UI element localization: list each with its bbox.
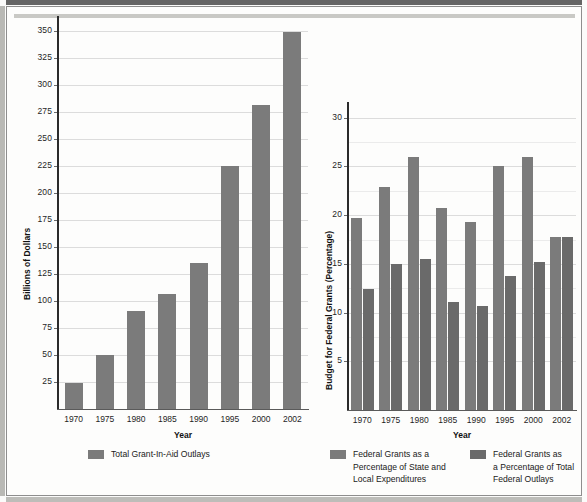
gridline-major: [58, 247, 308, 248]
right-x-axis-title: Year: [348, 430, 576, 440]
bar: [465, 222, 476, 410]
bar: [493, 166, 504, 410]
right-plot-area: 5101520253019701975198019851990199520002…: [348, 108, 576, 410]
x-axis-line: [347, 410, 577, 411]
legend-swatch: [88, 450, 104, 459]
gridline-major: [58, 166, 308, 167]
gridline-major: [58, 328, 308, 329]
gridline-major: [58, 58, 308, 59]
left-chart-legend: Total Grant-In-Aid Outlays: [88, 448, 288, 468]
x-axis-tick-label: 1990: [183, 414, 214, 424]
scanned-figure-page: 2550751001251501752002252502753003253501…: [0, 0, 587, 502]
gridline-major: [348, 166, 576, 167]
bar: [252, 105, 270, 409]
left-bar-chart: 2550751001251501752002252502753003253501…: [0, 0, 300, 460]
right-chart-legend: Federal Grants as a Percentage of State …: [330, 448, 580, 496]
bar: [550, 237, 561, 410]
bar: [65, 383, 83, 409]
right-y-axis-title: Budget for Federal Grants (Percentage): [324, 231, 334, 390]
bar: [127, 311, 145, 409]
bar: [534, 262, 545, 410]
gridline-major: [348, 118, 576, 119]
x-axis-tick-label: 2000: [246, 414, 277, 424]
y-axis-tick-label: 25: [312, 160, 342, 170]
x-axis-tick-label: 1970: [348, 415, 377, 425]
legend-entry: Federal Grants as a Percentage of State …: [330, 448, 446, 486]
bar: [448, 302, 459, 410]
bar: [420, 259, 431, 410]
legend-swatch: [470, 450, 486, 459]
bar: [505, 276, 516, 410]
y-axis-tick-label: 175: [22, 214, 52, 224]
x-axis-tick-label: 1980: [121, 414, 152, 424]
bar: [477, 306, 488, 410]
y-axis-tick-label: 30: [312, 112, 342, 122]
x-axis-tick-label: 2002: [548, 415, 577, 425]
legend-entry-label: Federal Grants as a Percentage of State …: [353, 448, 446, 486]
bar: [221, 166, 239, 409]
legend-entry: Federal Grants as a Percentage of Total …: [470, 448, 574, 486]
x-axis-tick-label: 1975: [89, 414, 120, 424]
y-axis-tick-label: 20: [312, 209, 342, 219]
y-axis-tick-label: 25: [22, 376, 52, 386]
bar: [96, 355, 114, 409]
y-axis-tick-label: 225: [22, 160, 52, 170]
bar: [436, 208, 447, 410]
y-axis-tick-label: 300: [22, 79, 52, 89]
x-axis-tick-label: 2000: [519, 415, 548, 425]
y-axis-line: [347, 102, 349, 410]
legend-entry-label: Federal Grants as a Percentage of Total …: [493, 448, 574, 486]
bar: [190, 263, 208, 409]
gridline-major: [58, 301, 308, 302]
y-axis-line: [57, 16, 59, 409]
bar: [351, 218, 362, 410]
y-axis-tick-label: 250: [22, 133, 52, 143]
left-x-axis-title: Year: [58, 430, 308, 440]
legend-entry-label: Total Grant-In-Aid Outlays: [111, 448, 210, 461]
gridline-minor: [348, 142, 576, 143]
right-bar-chart: 5101520253019701975198019851990199520002…: [310, 0, 587, 460]
gridline-major: [58, 193, 308, 194]
gridline-major: [58, 112, 308, 113]
x-axis-tick-label: 1990: [462, 415, 491, 425]
x-axis-tick-label: 1995: [491, 415, 520, 425]
bar: [158, 294, 176, 409]
bar: [562, 237, 573, 410]
x-axis-tick-label: 1970: [58, 414, 89, 424]
y-axis-tick-label: 350: [22, 25, 52, 35]
legend-swatch: [330, 450, 346, 459]
gridline-major: [58, 31, 308, 32]
gridline-major: [58, 274, 308, 275]
bar: [408, 157, 419, 410]
bar: [522, 157, 533, 410]
page-edge-shadow-bottom: [6, 497, 582, 502]
y-axis-tick-label: 200: [22, 187, 52, 197]
bar: [363, 289, 374, 410]
y-axis-tick-label: 275: [22, 106, 52, 116]
y-axis-tick-label: 75: [22, 322, 52, 332]
gridline-major: [58, 85, 308, 86]
x-axis-tick-label: 1980: [405, 415, 434, 425]
gridline-major: [58, 139, 308, 140]
left-plot-area: 2550751001251501752002252502753003253501…: [58, 22, 308, 409]
x-axis-line: [57, 409, 309, 410]
y-axis-tick-label: 325: [22, 52, 52, 62]
x-axis-tick-label: 1975: [377, 415, 406, 425]
legend-entry: Total Grant-In-Aid Outlays: [88, 448, 210, 461]
left-y-axis-title: Billions of Dollars: [22, 228, 32, 300]
bar: [283, 32, 301, 409]
y-axis-tick-label: 50: [22, 349, 52, 359]
bar: [379, 187, 390, 410]
x-axis-tick-label: 2002: [277, 414, 308, 424]
x-axis-tick-label: 1995: [214, 414, 245, 424]
gridline-major: [58, 220, 308, 221]
x-axis-tick-label: 1985: [434, 415, 463, 425]
bar: [391, 264, 402, 410]
x-axis-tick-label: 1985: [152, 414, 183, 424]
